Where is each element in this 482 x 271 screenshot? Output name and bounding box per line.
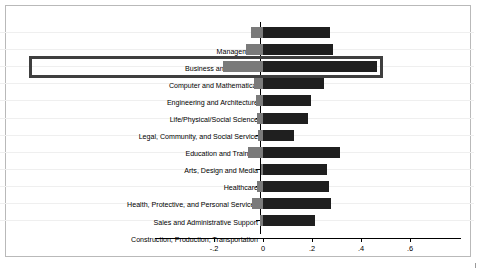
category-label: Construction, Production, Transportation (8, 236, 258, 244)
x-axis-tick (214, 238, 215, 242)
bar-row (0, 164, 482, 175)
x-axis-tick (361, 238, 362, 242)
highlight-box-computer-and-mathematical[interactable] (29, 56, 383, 78)
corner-mark-icon (475, 263, 476, 268)
bar-segment-positive (263, 181, 329, 192)
bar-segment-positive (263, 44, 333, 55)
bar-row (0, 113, 482, 124)
bar-segment-negative (251, 27, 263, 38)
x-axis-line (155, 238, 461, 239)
bar-row (0, 198, 482, 209)
bar-row (0, 130, 482, 141)
x-axis-tick (312, 238, 313, 242)
x-axis-tick-label: .6 (398, 244, 422, 253)
bar-segment-positive (263, 198, 331, 209)
x-axis-tick-label: .4 (349, 244, 373, 253)
bar-row (0, 27, 482, 38)
bar-segment-positive (263, 113, 308, 124)
bar-row (0, 215, 482, 226)
x-axis-tick (263, 238, 264, 242)
bar-segment-negative (248, 147, 263, 158)
bar-segment-negative (254, 78, 263, 89)
bar-row (0, 44, 482, 55)
x-axis-tick-label: -.2 (202, 244, 226, 253)
bar-segment-positive (263, 95, 311, 106)
bar-segment-negative (256, 95, 263, 106)
x-axis-tick-label: 0 (251, 244, 275, 253)
bar-row (0, 147, 482, 158)
bar-row (0, 95, 482, 106)
x-axis-tick (410, 238, 411, 242)
bar-row (0, 181, 482, 192)
bar-segment-negative (252, 198, 263, 209)
bar-row (0, 78, 482, 89)
x-axis-tick-label: .2 (300, 244, 324, 253)
bar-segment-positive (263, 147, 340, 158)
bar-segment-positive (263, 215, 315, 226)
bar-segment-positive (263, 78, 324, 89)
bar-segment-positive (263, 130, 294, 141)
bar-segment-positive (263, 164, 327, 175)
bar-segment-negative (246, 44, 263, 55)
bar-segment-positive (263, 27, 330, 38)
chart-figure: ManagementBusiness and FinancialComputer… (0, 0, 482, 271)
